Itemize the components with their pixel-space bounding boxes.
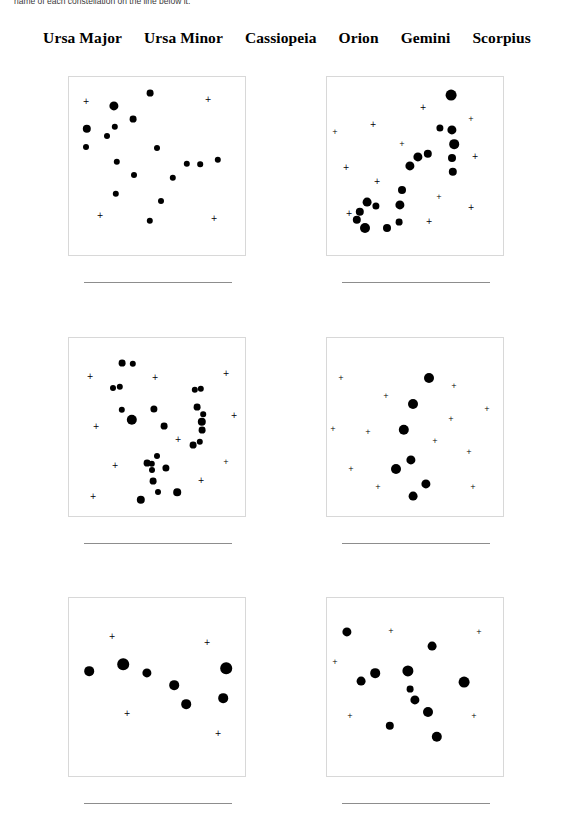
- answer-line-panel-6[interactable]: [342, 803, 490, 804]
- answer-line-panel-2[interactable]: [342, 282, 490, 283]
- faint-star-cross-icon: [338, 375, 344, 382]
- star-dot: [110, 385, 116, 391]
- faint-star-cross-icon: [470, 484, 476, 491]
- star-dot: [399, 425, 409, 435]
- faint-star-cross-icon: [468, 204, 475, 212]
- star-dot: [200, 411, 206, 417]
- faint-star-cross-icon: [375, 484, 381, 491]
- faint-star-cross-icon: [343, 164, 350, 172]
- star-dot: [199, 427, 206, 434]
- constellation-card: [326, 76, 506, 256]
- faint-star-cross-icon: [472, 153, 479, 161]
- constellation-grid: [0, 0, 574, 816]
- star-dot: [448, 154, 456, 162]
- constellation-card: [68, 76, 248, 256]
- star-dot: [408, 399, 418, 409]
- star-dot: [198, 386, 204, 392]
- faint-star-cross-icon: [93, 423, 100, 431]
- answer-line-panel-1[interactable]: [84, 282, 232, 283]
- star-dot: [144, 460, 151, 467]
- star-dot: [113, 191, 119, 197]
- star-dot: [119, 407, 125, 413]
- star-dot: [117, 384, 123, 390]
- star-dot: [413, 152, 422, 161]
- faint-star-cross-icon: [223, 370, 230, 378]
- faint-star-cross-icon: [90, 493, 97, 501]
- faint-star-cross-icon: [426, 218, 433, 226]
- star-dot: [198, 418, 206, 426]
- faint-star-cross-icon: [330, 426, 336, 433]
- faint-star-cross-icon: [436, 194, 442, 201]
- faint-star-cross-icon: [374, 178, 381, 186]
- answer-line-panel-5[interactable]: [84, 803, 232, 804]
- answer-line-panel-3[interactable]: [84, 543, 232, 544]
- star-dot: [428, 642, 437, 651]
- star-dot: [154, 145, 160, 151]
- constellation-card: [326, 337, 506, 517]
- star-field-panel-1: [68, 76, 246, 256]
- star-dot: [372, 202, 379, 209]
- star-dot: [402, 665, 413, 676]
- faint-star-cross-icon: [466, 449, 472, 456]
- star-dot: [459, 677, 470, 688]
- faint-star-cross-icon: [346, 210, 353, 218]
- star-dot: [150, 405, 157, 412]
- star-dot: [398, 186, 406, 194]
- star-dot: [162, 464, 169, 471]
- faint-star-cross-icon: [468, 116, 474, 123]
- faint-star-cross-icon: [399, 141, 405, 148]
- constellation-card: [326, 597, 506, 777]
- star-dot: [104, 133, 110, 139]
- star-dot: [218, 693, 228, 703]
- star-dot: [173, 488, 181, 496]
- star-dot: [109, 101, 118, 110]
- star-dot: [395, 200, 404, 209]
- faint-star-cross-icon: [124, 710, 131, 718]
- star-field-panel-6: [326, 597, 504, 777]
- star-dot: [197, 439, 203, 445]
- star-dot: [423, 707, 433, 717]
- faint-star-cross-icon: [83, 98, 90, 106]
- star-field-panel-3: [68, 337, 246, 517]
- star-dot: [83, 144, 89, 150]
- faint-star-cross-icon: [205, 96, 212, 104]
- star-dot: [406, 455, 415, 464]
- faint-star-cross-icon: [332, 129, 338, 136]
- constellation-card: [68, 337, 248, 517]
- faint-star-cross-icon: [448, 416, 454, 423]
- faint-star-cross-icon: [388, 628, 394, 635]
- star-dot: [142, 668, 151, 677]
- star-dot: [410, 695, 419, 704]
- star-dot: [84, 666, 94, 676]
- star-dot: [117, 658, 129, 670]
- star-dot: [449, 139, 459, 149]
- star-dot: [357, 677, 366, 686]
- faint-star-cross-icon: [347, 713, 353, 720]
- star-dot: [215, 157, 221, 163]
- star-dot: [449, 168, 457, 176]
- faint-star-cross-icon: [223, 459, 229, 466]
- star-dot: [161, 423, 168, 430]
- faint-star-cross-icon: [204, 639, 211, 647]
- faint-star-cross-icon: [383, 393, 389, 400]
- star-dot: [424, 150, 432, 158]
- faint-star-cross-icon: [432, 438, 438, 445]
- star-field-panel-4: [326, 337, 504, 517]
- answer-line-panel-4[interactable]: [342, 543, 490, 544]
- star-dot: [154, 453, 160, 459]
- star-dot: [220, 662, 232, 674]
- faint-star-cross-icon: [451, 383, 457, 390]
- star-dot: [421, 479, 430, 488]
- star-field-panel-2: [326, 76, 504, 256]
- star-dot: [424, 373, 434, 383]
- star-dot: [131, 172, 137, 178]
- star-dot: [170, 175, 176, 181]
- star-dot: [436, 124, 443, 131]
- faint-star-cross-icon: [348, 466, 354, 473]
- star-dot: [149, 467, 155, 473]
- faint-star-cross-icon: [476, 629, 482, 636]
- faint-star-cross-icon: [471, 713, 477, 720]
- star-dot: [114, 159, 120, 165]
- star-dot: [155, 489, 161, 495]
- star-dot: [112, 124, 118, 130]
